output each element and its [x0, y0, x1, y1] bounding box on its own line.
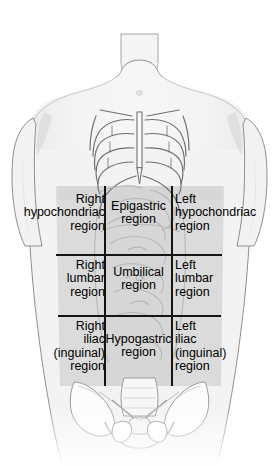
region-label-layer: Right hypochondriac region Epigastric re… [0, 0, 279, 466]
region-label-epigastric: Epigastric region [105, 200, 172, 227]
region-label-left-hypochondriac: Left hypochondriac region [175, 193, 277, 233]
region-label-hypogastric: Hypogastric region [105, 333, 172, 360]
region-label-right-lumbar: Right lumbar region [6, 259, 105, 299]
region-label-left-iliac: Left iliac (inguinal) region [175, 320, 277, 374]
region-label-right-iliac: Right iliac (inguinal) region [6, 320, 105, 374]
abdominal-regions-figure: Right hypochondriac region Epigastric re… [0, 0, 279, 466]
region-label-umbilical: Umbilical region [105, 266, 172, 293]
region-label-right-hypochondriac: Right hypochondriac region [6, 193, 105, 233]
region-label-left-lumbar: Left lumbar region [175, 259, 277, 299]
